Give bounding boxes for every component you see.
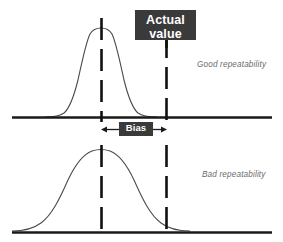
good-repeatability-curve: [45, 28, 157, 117]
actual-value-label-box: Actual value: [135, 10, 196, 40]
actual-value-label-line2: value: [135, 27, 196, 41]
measurement-bias-diagram: Actual value Bias Good repeatability Bad…: [0, 0, 283, 242]
bad-repeatability-annotation: Bad repeatability: [202, 170, 266, 179]
actual-value-label-line1: Actual: [135, 13, 196, 27]
good-repeatability-annotation: Good repeatability: [197, 60, 266, 69]
bias-label-box: Bias: [119, 122, 153, 136]
